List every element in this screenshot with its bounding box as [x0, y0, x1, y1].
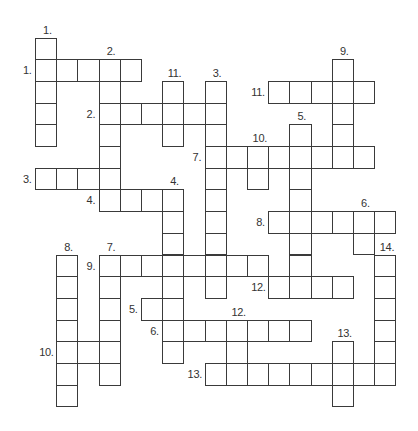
grid-cell[interactable]	[35, 168, 57, 191]
grid-cell[interactable]	[120, 103, 142, 126]
grid-cell[interactable]	[205, 276, 227, 299]
grid-cell[interactable]	[162, 124, 184, 147]
grid-cell[interactable]	[374, 298, 396, 321]
grid-cell[interactable]	[56, 168, 78, 191]
grid-cell[interactable]	[205, 124, 227, 147]
grid-cell[interactable]	[120, 255, 142, 278]
grid-cell[interactable]	[353, 211, 375, 234]
grid-cell[interactable]	[289, 211, 311, 234]
grid-cell[interactable]	[56, 59, 78, 82]
grid-cell[interactable]	[374, 276, 396, 299]
grid-cell[interactable]	[205, 363, 227, 386]
grid-cell[interactable]	[374, 255, 396, 278]
grid-cell[interactable]	[141, 189, 163, 212]
grid-cell[interactable]	[205, 233, 227, 256]
grid-cell[interactable]	[99, 168, 121, 191]
grid-cell[interactable]	[35, 81, 57, 104]
grid-cell[interactable]	[205, 81, 227, 104]
grid-cell[interactable]	[99, 320, 121, 343]
grid-cell[interactable]	[35, 103, 57, 126]
grid-cell[interactable]	[205, 255, 227, 278]
grid-cell[interactable]	[311, 363, 333, 386]
grid-cell[interactable]	[56, 385, 78, 408]
grid-cell[interactable]	[35, 59, 57, 82]
grid-cell[interactable]	[226, 255, 248, 278]
grid-cell[interactable]	[289, 233, 311, 256]
grid-cell[interactable]	[353, 146, 375, 169]
grid-cell[interactable]	[99, 276, 121, 299]
grid-cell[interactable]	[374, 211, 396, 234]
grid-cell[interactable]	[289, 189, 311, 212]
grid-cell[interactable]	[205, 211, 227, 234]
grid-cell[interactable]	[311, 211, 333, 234]
grid-cell[interactable]	[35, 38, 57, 61]
grid-cell[interactable]	[374, 341, 396, 364]
grid-cell[interactable]	[247, 146, 269, 169]
grid-cell[interactable]	[56, 363, 78, 386]
grid-cell[interactable]	[289, 146, 311, 169]
grid-cell[interactable]	[99, 341, 121, 364]
grid-cell[interactable]	[183, 255, 205, 278]
grid-cell[interactable]	[162, 276, 184, 299]
grid-cell[interactable]	[56, 276, 78, 299]
grid-cell[interactable]	[99, 124, 121, 147]
grid-cell[interactable]	[247, 363, 269, 386]
grid-cell[interactable]	[247, 168, 269, 191]
grid-cell[interactable]	[289, 363, 311, 386]
grid-cell[interactable]	[226, 363, 248, 386]
grid-cell[interactable]	[289, 81, 311, 104]
grid-cell[interactable]	[99, 298, 121, 321]
grid-cell[interactable]	[311, 276, 333, 299]
grid-cell[interactable]	[311, 81, 333, 104]
grid-cell[interactable]	[289, 124, 311, 147]
grid-cell[interactable]	[99, 81, 121, 104]
grid-cell[interactable]	[374, 320, 396, 343]
grid-cell[interactable]	[162, 233, 184, 256]
grid-cell[interactable]	[205, 103, 227, 126]
grid-cell[interactable]	[289, 276, 311, 299]
grid-cell[interactable]	[162, 189, 184, 212]
grid-cell[interactable]	[205, 146, 227, 169]
grid-cell[interactable]	[289, 255, 311, 278]
grid-cell[interactable]	[268, 146, 290, 169]
grid-cell[interactable]	[56, 320, 78, 343]
grid-cell[interactable]	[56, 298, 78, 321]
grid-cell[interactable]	[205, 320, 227, 343]
grid-cell[interactable]	[332, 276, 354, 299]
grid-cell[interactable]	[77, 168, 99, 191]
grid-cell[interactable]	[332, 103, 354, 126]
grid-cell[interactable]	[141, 103, 163, 126]
grid-cell[interactable]	[268, 276, 290, 299]
grid-cell[interactable]	[247, 255, 269, 278]
grid-cell[interactable]	[141, 298, 163, 321]
grid-cell[interactable]	[311, 146, 333, 169]
grid-cell[interactable]	[120, 59, 142, 82]
grid-cell[interactable]	[162, 320, 184, 343]
grid-cell[interactable]	[332, 341, 354, 364]
grid-cell[interactable]	[162, 81, 184, 104]
grid-cell[interactable]	[162, 103, 184, 126]
grid-cell[interactable]	[226, 146, 248, 169]
grid-cell[interactable]	[332, 146, 354, 169]
grid-cell[interactable]	[332, 59, 354, 82]
grid-cell[interactable]	[268, 211, 290, 234]
grid-cell[interactable]	[332, 81, 354, 104]
grid-cell[interactable]	[120, 189, 142, 212]
grid-cell[interactable]	[162, 341, 184, 364]
grid-cell[interactable]	[183, 103, 205, 126]
grid-cell[interactable]	[56, 255, 78, 278]
grid-cell[interactable]	[268, 320, 290, 343]
grid-cell[interactable]	[353, 81, 375, 104]
grid-cell[interactable]	[332, 211, 354, 234]
grid-cell[interactable]	[162, 211, 184, 234]
grid-cell[interactable]	[99, 189, 121, 212]
grid-cell[interactable]	[332, 363, 354, 386]
grid-cell[interactable]	[247, 320, 269, 343]
grid-cell[interactable]	[99, 146, 121, 169]
grid-cell[interactable]	[289, 168, 311, 191]
grid-cell[interactable]	[226, 341, 248, 364]
grid-cell[interactable]	[141, 255, 163, 278]
grid-cell[interactable]	[183, 320, 205, 343]
grid-cell[interactable]	[99, 255, 121, 278]
grid-cell[interactable]	[289, 320, 311, 343]
